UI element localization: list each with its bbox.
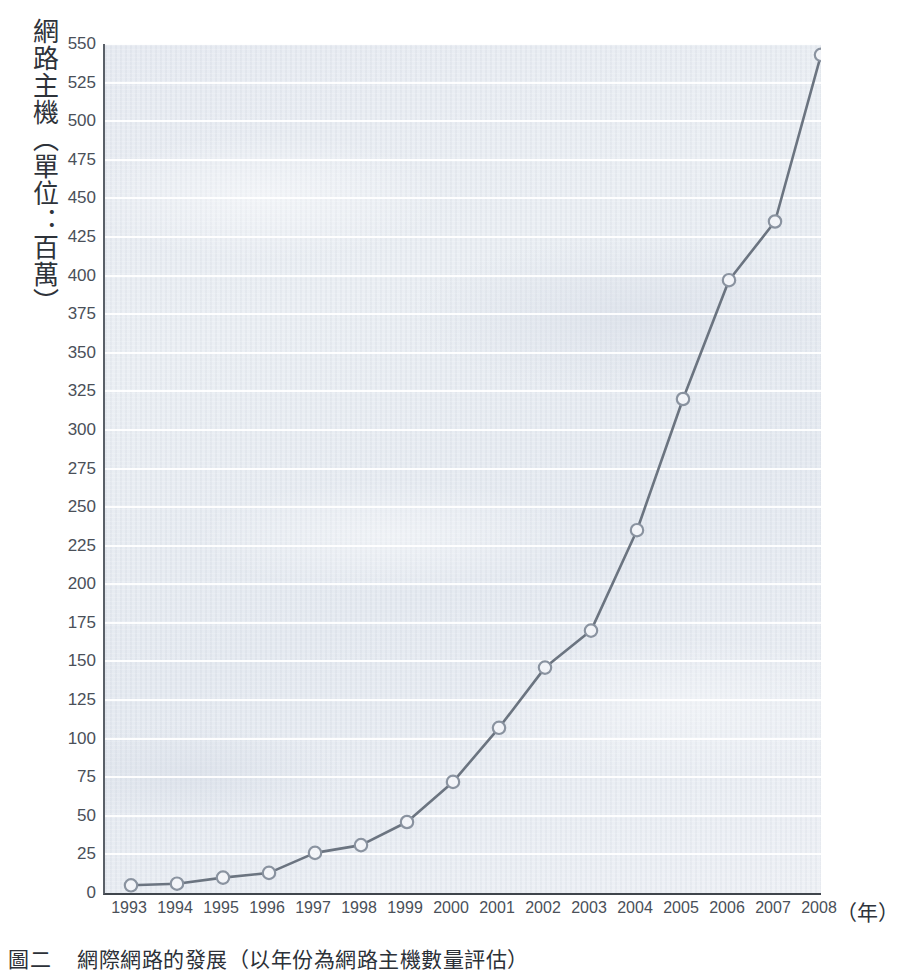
data-point-marker xyxy=(401,816,413,828)
data-series-line xyxy=(105,44,821,893)
data-point-marker xyxy=(585,624,597,636)
x-tick-label: 1993 xyxy=(111,899,147,917)
y-tick-label: 275 xyxy=(50,459,96,479)
y-tick-label: 150 xyxy=(50,651,96,671)
x-tick-label: 1998 xyxy=(341,899,377,917)
y-tick-label: 200 xyxy=(50,574,96,594)
y-tick-label: 450 xyxy=(50,188,96,208)
data-point-marker xyxy=(493,722,505,734)
data-point-marker xyxy=(171,878,183,890)
y-tick-label: 225 xyxy=(50,536,96,556)
x-tick-label: 2004 xyxy=(617,899,653,917)
data-point-marker xyxy=(125,879,137,891)
y-tick-label: 400 xyxy=(50,266,96,286)
caption-text: 網際網路的發展（以年份為網路主機數量評估） xyxy=(77,948,529,972)
data-point-marker xyxy=(677,393,689,405)
y-axis-tick-labels: 0255075100125150175200225250275300325350… xyxy=(46,0,96,967)
data-point-marker xyxy=(769,215,781,227)
series-line xyxy=(131,55,821,886)
y-tick-label: 350 xyxy=(50,343,96,363)
y-tick-label: 175 xyxy=(50,613,96,633)
data-point-marker xyxy=(723,274,735,286)
x-tick-label: 1996 xyxy=(249,899,285,917)
data-point-marker xyxy=(447,776,459,788)
data-point-marker xyxy=(309,847,321,859)
x-tick-label: 2005 xyxy=(663,899,699,917)
y-tick-label: 125 xyxy=(50,690,96,710)
data-point-marker xyxy=(355,839,367,851)
x-axis-title: （年） xyxy=(836,896,899,926)
y-tick-label: 25 xyxy=(50,844,96,864)
data-point-marker xyxy=(631,524,643,536)
x-tick-label: 1995 xyxy=(203,899,239,917)
x-tick-label: 1997 xyxy=(295,899,331,917)
caption-label: 圖二 xyxy=(8,948,51,972)
x-tick-label: 1999 xyxy=(387,899,423,917)
x-tick-label: 1994 xyxy=(157,899,193,917)
y-tick-label: 300 xyxy=(50,420,96,440)
plot-area xyxy=(103,44,821,895)
x-tick-label: 2008 xyxy=(801,899,837,917)
x-tick-label: 2007 xyxy=(755,899,791,917)
data-point-marker xyxy=(217,871,229,883)
y-tick-label: 50 xyxy=(50,806,96,826)
y-tick-label: 250 xyxy=(50,497,96,517)
y-tick-label: 500 xyxy=(50,111,96,131)
x-tick-label: 2006 xyxy=(709,899,745,917)
x-tick-label: 2003 xyxy=(571,899,607,917)
y-tick-label: 550 xyxy=(50,34,96,54)
y-tick-label: 425 xyxy=(50,227,96,247)
data-point-marker xyxy=(815,49,821,61)
y-tick-label: 325 xyxy=(50,381,96,401)
x-axis-tick-labels: 1993199419951996199719981999200020012002… xyxy=(0,899,920,929)
data-point-marker xyxy=(539,661,551,673)
x-tick-label: 2002 xyxy=(525,899,561,917)
x-tick-label: 2001 xyxy=(479,899,515,917)
y-tick-label: 100 xyxy=(50,729,96,749)
x-tick-label: 2000 xyxy=(433,899,469,917)
y-tick-label: 375 xyxy=(50,304,96,324)
y-tick-label: 75 xyxy=(50,767,96,787)
y-tick-label: 525 xyxy=(50,73,96,93)
y-tick-label: 475 xyxy=(50,150,96,170)
data-point-marker xyxy=(263,867,275,879)
figure-caption: 圖二網際網路的發展（以年份為網路主機數量評估） xyxy=(8,943,920,973)
